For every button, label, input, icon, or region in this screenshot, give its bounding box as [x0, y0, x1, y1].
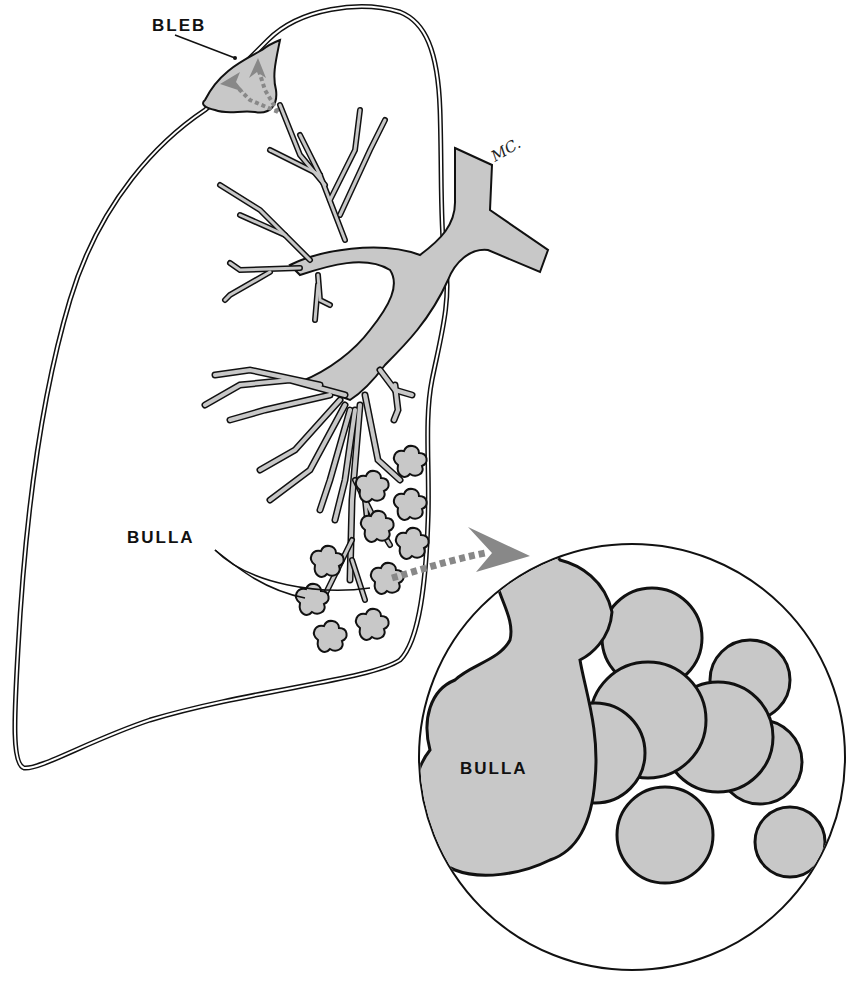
- bulla-small-label: BULLA: [127, 528, 195, 547]
- magnified-inset: BULLA: [415, 542, 845, 970]
- lung-diagram: BLEB: [0, 0, 856, 983]
- bleb-label: BLEB: [152, 16, 206, 35]
- bleb-pointer: [175, 35, 235, 58]
- bulla-magnified-label: BULLA: [460, 759, 528, 778]
- artist-signature: MC.: [487, 134, 524, 166]
- alveolar-clusters: [296, 446, 429, 652]
- bulla-pointer-1: [215, 550, 305, 598]
